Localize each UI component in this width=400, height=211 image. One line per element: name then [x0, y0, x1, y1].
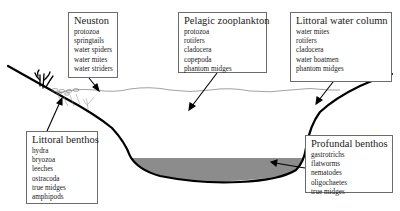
organism-item: cladocera	[184, 46, 262, 55]
organism-list: gastrotrichs flatworms nematodes oligoch…	[311, 151, 388, 197]
organism-item: bryozoa	[32, 156, 93, 165]
organism-item: rotifers	[184, 37, 262, 46]
organism-item: gastrotrichs	[311, 151, 388, 160]
water-surface	[58, 88, 340, 93]
zone-title: Profundal benthos	[311, 138, 388, 150]
zone-title: Pelagic zooplankton	[184, 15, 262, 27]
zone-title: Littoral water column	[296, 15, 387, 27]
zone-box-neuston: Neuston protozoa springtails water spide…	[68, 12, 118, 78]
organism-item: oligochaetes	[311, 179, 388, 188]
organism-item: water boatmen	[296, 56, 387, 65]
zone-box-profundal-benthos: Profundal benthos gastrotrichs flatworms…	[305, 135, 393, 193]
organism-item: true midges	[311, 188, 388, 197]
organism-list: hydra bryozoa leeches ostracoda true mid…	[32, 147, 93, 202]
organism-item: protozoa	[184, 28, 262, 37]
organism-item: protozoa	[74, 28, 113, 37]
organism-item: rotifers	[296, 37, 387, 46]
organism-list: protozoa rotifers cladocera copepoda pha…	[184, 28, 262, 74]
organism-item: ostracoda	[32, 175, 93, 184]
organism-item: amphipods	[32, 193, 93, 202]
organism-item: nematodes	[311, 169, 388, 178]
organism-item: water spiders	[74, 46, 113, 55]
organism-item: cladocera	[296, 46, 387, 55]
zone-box-littoral-water-column: Littoral water column water mites rotife…	[290, 12, 392, 82]
organism-item: leeches	[32, 165, 93, 174]
organism-list: water mites rotifers cladocera water boa…	[296, 28, 387, 74]
zone-title: Neuston	[74, 15, 113, 27]
zone-box-littoral-benthos: Littoral benthos hydra bryozoa leeches o…	[26, 131, 98, 204]
organism-item: water mites	[74, 56, 113, 65]
organism-item: springtails	[74, 37, 113, 46]
zone-title: Littoral benthos	[32, 134, 93, 146]
zone-box-pelagic-zooplankton: Pelagic zooplankton protozoa rotifers cl…	[178, 12, 267, 73]
organism-item: phantom midges	[184, 65, 262, 74]
organism-item: water striders	[74, 65, 113, 74]
organism-item: true midges	[32, 184, 93, 193]
organism-item: phantom midges	[296, 65, 387, 74]
organism-item: flatworms	[311, 160, 388, 169]
organism-list: protozoa springtails water spiders water…	[74, 28, 113, 74]
organism-item: hydra	[32, 147, 93, 156]
organism-item: water mites	[296, 28, 387, 37]
organism-item: copepoda	[184, 56, 262, 65]
